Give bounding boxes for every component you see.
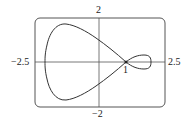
x-max-label: 2.5	[168, 57, 181, 67]
y-min-label: −2	[92, 109, 103, 119]
y-max-label: 2	[96, 5, 101, 15]
plot-frame	[35, 18, 165, 107]
x-min-label: −2.5	[11, 57, 29, 67]
crossing-label: 1	[123, 65, 128, 75]
